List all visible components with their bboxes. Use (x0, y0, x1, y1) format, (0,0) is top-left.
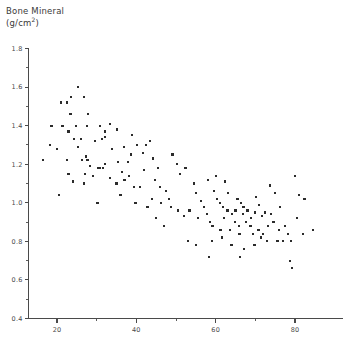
y-tick-label: 1.8 (12, 45, 23, 53)
y-tick-label: 0.4 (12, 315, 23, 323)
data-point (168, 198, 170, 200)
data-point (183, 215, 185, 217)
data-point (254, 211, 256, 213)
data-point (131, 134, 133, 136)
data-point (123, 146, 125, 148)
axes (29, 49, 343, 319)
data-point (250, 217, 252, 219)
y-tick-label: 0.6 (12, 276, 23, 284)
data-point (85, 155, 87, 157)
data-point (279, 206, 281, 208)
y-tick-label: 1.6 (12, 83, 23, 91)
data-point (242, 213, 244, 215)
data-point (72, 180, 74, 182)
scatter-chart: Bone Mineral (g/cm2) 0.40.60.81.01.21.41… (0, 0, 343, 350)
data-point (211, 240, 213, 242)
data-point (109, 177, 111, 179)
data-point (303, 198, 305, 200)
data-point (67, 173, 69, 175)
data-point (171, 153, 173, 155)
data-point (203, 206, 205, 208)
data-point (134, 202, 136, 204)
data-points (42, 86, 314, 269)
data-point (289, 260, 291, 262)
data-point (211, 225, 213, 227)
data-point (272, 221, 274, 223)
plot-area: 0.40.60.81.01.21.41.61.8 20406080 (0, 0, 343, 350)
data-point (87, 113, 89, 115)
data-point (142, 152, 144, 154)
data-point (261, 215, 263, 217)
data-point (302, 233, 304, 235)
data-point (195, 244, 197, 246)
data-point (240, 202, 242, 204)
data-point (60, 101, 62, 103)
data-point (219, 229, 221, 231)
data-point (96, 202, 98, 204)
data-point (42, 159, 44, 161)
data-point (99, 167, 101, 169)
data-point (215, 175, 217, 177)
data-point (223, 217, 225, 219)
data-point (81, 159, 83, 161)
data-point (149, 140, 151, 142)
data-point (101, 138, 103, 140)
data-point (160, 202, 162, 204)
data-point (267, 225, 269, 227)
data-point (213, 190, 215, 192)
data-point (206, 213, 208, 215)
data-point (298, 194, 300, 196)
data-point (287, 233, 289, 235)
data-point (294, 175, 296, 177)
y-tick-label: 1.4 (12, 122, 23, 130)
data-point (139, 186, 141, 188)
data-point (177, 209, 179, 211)
data-point (229, 229, 231, 231)
data-point (92, 175, 94, 177)
data-point (117, 161, 119, 163)
data-point (89, 165, 91, 167)
data-point (246, 209, 248, 211)
data-point (269, 184, 271, 186)
data-point (195, 192, 197, 194)
data-point (208, 256, 210, 258)
data-point (130, 153, 132, 155)
data-point (170, 206, 172, 208)
data-point (184, 167, 186, 169)
data-point (66, 159, 68, 161)
data-point (224, 180, 226, 182)
data-point (165, 190, 167, 192)
data-point (49, 144, 51, 146)
data-point (83, 96, 85, 98)
data-point (109, 123, 111, 125)
data-point (274, 192, 276, 194)
data-point (234, 209, 236, 211)
data-point (284, 225, 286, 227)
data-point (116, 128, 118, 130)
data-point (266, 240, 268, 242)
data-point (312, 229, 314, 231)
data-point (216, 198, 218, 200)
data-point (245, 221, 247, 223)
data-point (75, 125, 77, 127)
data-point (236, 198, 238, 200)
data-point (104, 163, 106, 165)
data-point (200, 200, 202, 202)
data-point (230, 244, 232, 246)
data-point (255, 196, 257, 198)
data-point (104, 136, 106, 138)
data-point (104, 130, 106, 132)
data-point (121, 171, 123, 173)
data-point (226, 209, 228, 211)
y-tick-label: 1.0 (12, 199, 23, 207)
x-tick-label: 60 (211, 326, 220, 334)
data-point (258, 204, 260, 206)
data-point (84, 173, 86, 175)
data-point (219, 202, 221, 204)
data-point (253, 244, 255, 246)
data-point (136, 144, 138, 146)
data-point (238, 225, 240, 227)
data-point (77, 86, 79, 88)
data-point (159, 186, 161, 188)
data-point (99, 125, 101, 127)
